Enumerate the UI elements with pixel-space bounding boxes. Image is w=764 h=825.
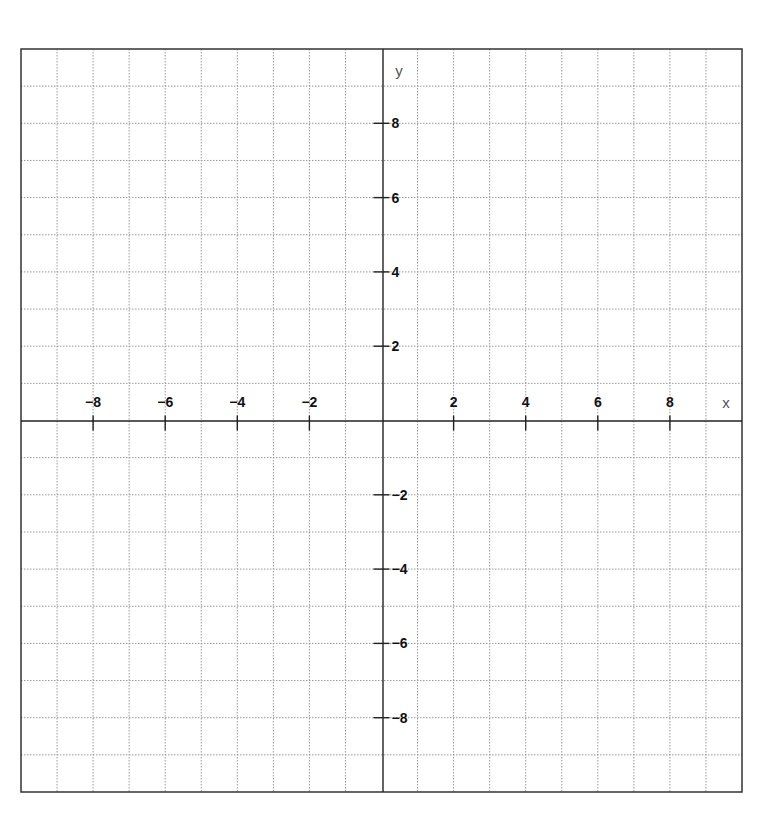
x-tick-label: −6 xyxy=(157,394,173,410)
y-tick-label: 8 xyxy=(392,115,400,131)
coordinate-plane: −8−6−4−22468 8642−2−4−6−8 x y xyxy=(0,0,764,825)
y-tick-label: −2 xyxy=(392,487,408,503)
x-tick-label: 2 xyxy=(450,394,458,410)
x-tick-label: −4 xyxy=(229,394,245,410)
x-tick-label: −2 xyxy=(301,394,317,410)
x-tick-label: −8 xyxy=(85,394,101,410)
y-tick-label: −4 xyxy=(392,561,408,577)
x-tick-label: 8 xyxy=(666,394,674,410)
y-tick-label: 2 xyxy=(392,338,400,354)
x-axis-label: x xyxy=(722,394,730,411)
y-axis-label: y xyxy=(395,62,403,79)
y-tick-label: 4 xyxy=(392,264,400,280)
y-tick-label: −6 xyxy=(392,635,408,651)
x-tick-label: 4 xyxy=(522,394,530,410)
x-ticks: −8−6−4−22468 xyxy=(85,394,674,431)
x-tick-label: 6 xyxy=(594,394,602,410)
y-tick-label: 6 xyxy=(392,190,400,206)
y-tick-label: −8 xyxy=(392,710,408,726)
